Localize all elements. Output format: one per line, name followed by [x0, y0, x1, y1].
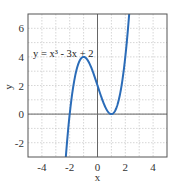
x-axis-label: x	[95, 171, 101, 183]
y-tick-label: -2	[15, 137, 24, 149]
x-tick-label: -4	[37, 161, 47, 173]
y-tick-labels: 6420-2	[15, 22, 25, 148]
x-tick-label: -2	[65, 161, 74, 173]
x-tick-label: 4	[150, 161, 156, 173]
x-tick-label: 2	[123, 161, 129, 173]
y-tick-label: 2	[19, 80, 25, 92]
y-tick-label: 4	[19, 51, 25, 63]
y-tick-label: 0	[19, 108, 25, 120]
y-axis-label: y	[2, 84, 14, 90]
equation-annotation: y = x³ - 3x + 2	[33, 48, 94, 59]
y-tick-label: 6	[19, 22, 25, 34]
chart: -4-2024 6420-2 x y y = x³ - 3x + 2	[0, 0, 177, 185]
